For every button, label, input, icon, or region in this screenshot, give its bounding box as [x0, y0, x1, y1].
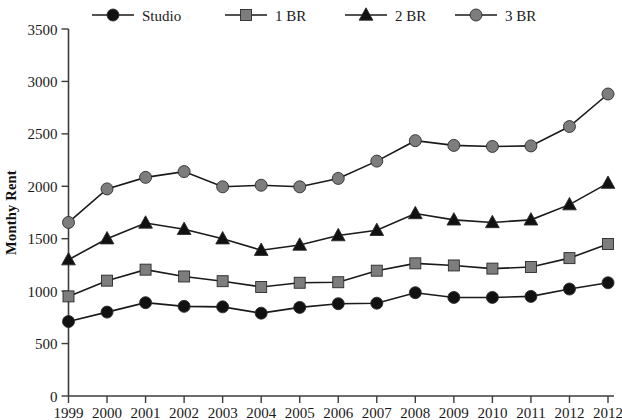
- legend-item-2-br[interactable]: 2 BR: [345, 8, 426, 24]
- y-axis-label: Monthy Rent: [3, 170, 19, 255]
- data-point: [563, 121, 575, 133]
- x-axis-tick-label: 2002: [169, 405, 199, 420]
- x-axis-tick-label: 2001: [131, 405, 161, 420]
- y-axis-tick-label: 1500: [28, 231, 58, 247]
- data-point: [525, 290, 537, 302]
- x-axis: 1999200020012002200320042005200620072008…: [54, 396, 622, 420]
- data-point: [602, 88, 614, 100]
- data-point: [486, 291, 498, 303]
- legend-label: 2 BR: [395, 8, 426, 24]
- x-axis-tick-label: 2005: [285, 405, 315, 420]
- legend-item-3-br[interactable]: 3 BR: [455, 8, 536, 24]
- data-point: [601, 176, 615, 188]
- data-point: [370, 223, 384, 235]
- data-point: [217, 276, 228, 287]
- y-axis-tick-label: 0: [50, 389, 58, 405]
- y-axis-tick-label: 2000: [28, 179, 58, 195]
- data-point: [409, 287, 421, 299]
- data-point: [140, 264, 151, 275]
- x-axis-tick-label: 2008: [400, 405, 430, 420]
- data-point: [486, 140, 498, 152]
- data-point: [487, 263, 498, 274]
- data-point: [178, 300, 190, 312]
- x-axis-tick-label: 2000: [92, 405, 122, 420]
- data-point: [63, 316, 75, 328]
- data-point: [217, 181, 229, 193]
- data-point: [179, 271, 190, 282]
- data-point: [448, 260, 459, 271]
- legend-marker-icon: [241, 10, 252, 21]
- series-2-br: [62, 176, 615, 265]
- y-axis-tick-label: 1000: [28, 284, 58, 300]
- y-axis-tick-label: 500: [35, 336, 58, 352]
- data-point: [603, 238, 614, 249]
- x-axis-tick-label: 2010: [477, 405, 507, 420]
- data-point: [410, 258, 421, 269]
- data-point: [524, 213, 538, 225]
- data-point: [63, 291, 74, 302]
- data-point: [448, 291, 460, 303]
- data-point: [140, 171, 152, 183]
- y-axis-tick-label: 3000: [28, 74, 58, 90]
- data-point: [256, 281, 267, 292]
- x-axis-tick-label: 2012: [554, 405, 584, 420]
- chart-container: Studio1 BR2 BR3 BR 050010001500200025003…: [0, 0, 622, 420]
- data-point: [101, 306, 113, 318]
- x-axis-tick-label: 2003: [208, 405, 238, 420]
- line-chart: Studio1 BR2 BR3 BR 050010001500200025003…: [0, 0, 622, 420]
- series-line: [69, 94, 609, 222]
- legend-item-1-br[interactable]: 1 BR: [225, 8, 306, 24]
- legend-label: 1 BR: [275, 8, 306, 24]
- data-point: [332, 172, 344, 184]
- legend-marker-icon: [359, 8, 373, 20]
- legend-item-studio[interactable]: Studio: [92, 8, 181, 24]
- data-point: [294, 277, 305, 288]
- data-point: [100, 232, 114, 244]
- x-axis-tick-label: 2011: [516, 405, 545, 420]
- data-point: [217, 301, 229, 313]
- data-point: [371, 155, 383, 167]
- data-point: [63, 216, 75, 228]
- data-point: [525, 262, 536, 273]
- legend-marker-icon: [470, 9, 482, 21]
- y-axis-tick-label: 3500: [28, 22, 58, 38]
- x-axis-tick-label: 1999: [54, 405, 84, 420]
- data-point: [564, 253, 575, 264]
- data-point: [101, 183, 113, 195]
- data-point: [602, 277, 614, 289]
- y-axis-title: Monthy Rent: [3, 170, 19, 255]
- y-axis: 0500100015002000250030003500: [28, 22, 69, 405]
- data-point: [408, 206, 422, 218]
- x-axis-tick-label: 2007: [362, 405, 393, 420]
- data-point: [371, 297, 383, 309]
- data-point: [448, 139, 460, 151]
- data-point: [255, 179, 267, 191]
- data-point: [371, 265, 382, 276]
- chart-legend: Studio1 BR2 BR3 BR: [92, 8, 536, 24]
- legend-label: 3 BR: [505, 8, 536, 24]
- data-point: [178, 166, 190, 178]
- data-point: [333, 277, 344, 288]
- data-point: [255, 307, 267, 319]
- data-point: [294, 301, 306, 313]
- data-point: [140, 297, 152, 309]
- data-point: [563, 197, 577, 209]
- data-point: [102, 275, 113, 286]
- data-point: [332, 298, 344, 310]
- data-point: [409, 135, 421, 147]
- y-axis-tick-label: 2500: [28, 126, 58, 142]
- legend-marker-icon: [107, 9, 119, 21]
- chart-series: [62, 88, 615, 328]
- series-3-br: [63, 88, 615, 228]
- x-axis-tick-label: 2004: [246, 405, 277, 420]
- x-axis-tick-label: 2009: [439, 405, 469, 420]
- data-point: [525, 140, 537, 152]
- legend-label: Studio: [142, 8, 181, 24]
- data-point: [139, 216, 153, 228]
- data-point: [294, 181, 306, 193]
- data-point: [563, 283, 575, 295]
- x-axis-tick-label: 2006: [323, 405, 354, 420]
- data-point: [62, 252, 76, 264]
- x-axis-tick-label: 2012: [593, 405, 622, 420]
